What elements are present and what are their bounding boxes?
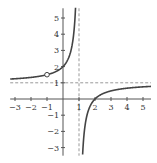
hole-point (45, 72, 50, 77)
y-tick-label: −2 (47, 127, 59, 136)
axes (10, 8, 151, 155)
y-tick-label: 4 (54, 30, 59, 39)
x-tick-label: 5 (140, 103, 145, 112)
x-tick-label: −3 (9, 103, 21, 112)
x-tick-label: 1 (76, 103, 81, 112)
right-branch (83, 86, 151, 154)
left-branch (10, 8, 75, 79)
y-tick-label: −1 (47, 111, 59, 120)
y-tick-label: 3 (54, 46, 59, 55)
asymptotes (10, 8, 151, 155)
y-tick-label: −3 (47, 144, 59, 153)
open-circle (45, 72, 50, 77)
x-tick-label: 2 (92, 103, 97, 112)
x-tick-label: 4 (124, 103, 129, 112)
y-tick-label: 5 (54, 14, 59, 23)
x-tick-label: 3 (108, 103, 113, 112)
rational-function-graph: −3−2−11234554321−1−2−3 (0, 0, 157, 163)
x-tick-label: −2 (25, 103, 37, 112)
y-tick-label: 1 (54, 79, 59, 88)
function-curve (10, 8, 151, 155)
